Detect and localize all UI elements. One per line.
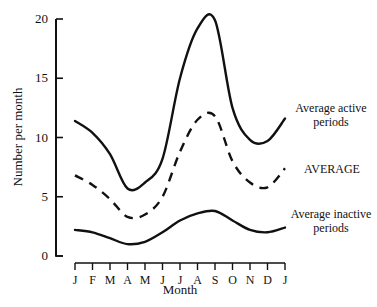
y-tick-label: 5 (42, 189, 49, 204)
x-axis-label: Month (163, 282, 198, 297)
x-tick-label: S (212, 273, 219, 287)
y-tick-label: 15 (35, 70, 48, 85)
average-line (75, 113, 285, 218)
y-tick-label: 0 (42, 248, 49, 263)
annotation-label: AVERAGE (304, 162, 360, 176)
y-tick-label: 10 (35, 130, 48, 145)
x-tick-label: J (73, 273, 78, 287)
y-axis: 05101520 (35, 11, 63, 263)
inactive-periods-line (75, 211, 285, 245)
active-periods-line (75, 14, 285, 190)
x-tick-label: O (228, 273, 237, 287)
x-tick-label: F (89, 273, 96, 287)
x-tick-label: N (246, 273, 255, 287)
x-tick-label: M (105, 273, 116, 287)
annotation-label-line2: periods (313, 115, 349, 129)
series-lines (75, 14, 285, 244)
annotation-label: Average inactive (291, 207, 372, 221)
x-tick-label: J (283, 273, 288, 287)
x-tick-label: A (123, 273, 132, 287)
y-axis-label: Number per month (10, 87, 25, 186)
series-annotations: Average activeperiodsAVERAGEAverage inac… (291, 101, 372, 235)
annotation-label: Average active (295, 101, 366, 115)
line-chart: 05101520 JFMAMJJASONDJ Average activeper… (0, 0, 377, 307)
y-tick-label: 20 (35, 11, 48, 26)
x-tick-label: D (263, 273, 272, 287)
x-tick-label: M (140, 273, 151, 287)
annotation-label-line2: periods (313, 221, 349, 235)
